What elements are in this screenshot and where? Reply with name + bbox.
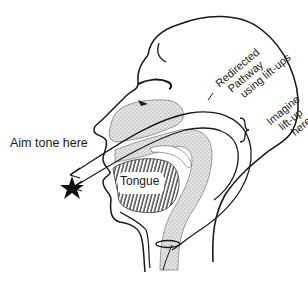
- pointer-tick: [208, 93, 213, 100]
- eyebrow: [138, 80, 171, 89]
- brow-line: [158, 43, 166, 62]
- tongue-label: Tongue: [120, 175, 159, 187]
- jaw-line: [120, 212, 150, 268]
- aim-tone-label: Aim tone here: [10, 137, 88, 150]
- vocal-tract-diagram: Aim tone here Tongue Redirected Pathway …: [0, 0, 308, 290]
- arrowhead-upper: [70, 168, 80, 178]
- target-star-icon: [60, 176, 84, 199]
